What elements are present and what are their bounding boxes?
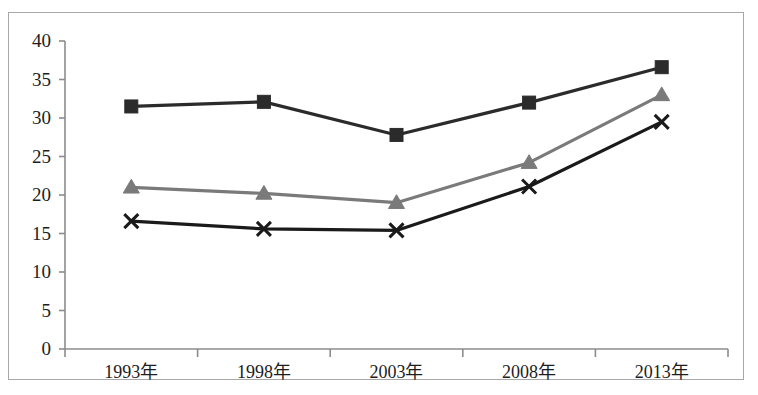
x-axis-tick-label: 1993年 [65,363,198,381]
chart-canvas [0,0,758,395]
data-point-marker [125,100,138,113]
y-axis-tick-label: 20 [11,185,51,204]
data-point-marker [654,87,670,101]
series-group [123,61,669,238]
y-axis-tick-label: 10 [11,262,51,281]
data-point-marker [390,128,403,141]
y-axis-tick-label: 5 [11,301,51,320]
y-axis-tick-label: 0 [11,339,51,358]
y-axis-tick-label: 15 [11,224,51,243]
chart-figure: 0510152025303540 1993年1998年2003年2008年201… [0,0,758,395]
y-axis-tick-label: 40 [11,31,51,50]
y-axis-tick-label: 35 [11,70,51,89]
y-axis-tick-label: 30 [11,108,51,127]
x-axis-tick-label: 2008年 [463,363,596,381]
data-point-marker [655,61,668,74]
data-point-marker [655,115,669,129]
data-point-marker [523,96,536,109]
data-point-marker [257,95,270,108]
x-axis-tick-label: 2003年 [330,363,463,381]
series-line [131,67,661,135]
x-axis-tick-label: 1998年 [198,363,331,381]
y-axis-tick-label: 25 [11,147,51,166]
chart-series-square [125,61,668,142]
series-line [131,95,661,203]
x-axis-tick-label: 2013年 [595,363,728,381]
